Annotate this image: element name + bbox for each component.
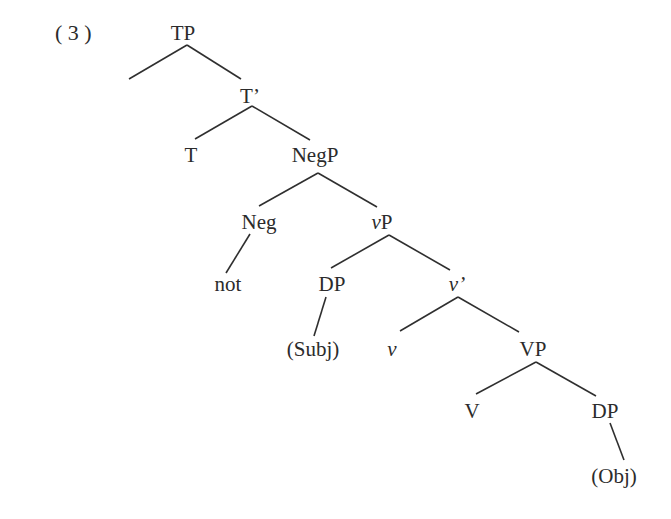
tree-node-subj: (Subj) <box>287 337 340 361</box>
tree-edge-tbar <box>252 106 310 140</box>
tree-edge-dp2 <box>610 423 624 460</box>
tree-edge-vp <box>476 362 536 394</box>
tree-node-vp: vP <box>371 210 392 234</box>
tree-edge-negp <box>259 173 318 206</box>
tree-edge-tp <box>187 45 241 79</box>
tree-node-v: v <box>387 337 397 361</box>
tree-node-neg: Neg <box>242 210 277 234</box>
tree-node-vbar: v’ <box>449 272 465 296</box>
tree-edge-vp <box>389 235 450 270</box>
tree-edges <box>129 45 624 460</box>
tree-edge-negp <box>318 173 377 207</box>
tree-nodes: TPT’TNegPNegvPnotDPv’(Subj)vVPVDP(Obj) <box>171 21 637 488</box>
tree-edge-vbar <box>400 297 458 331</box>
tree-node-t: T <box>185 143 198 167</box>
tree-node-vp: VP <box>520 337 547 361</box>
tree-node-not: not <box>215 272 242 296</box>
syntax-tree-diagram: ( 3 ) TPT’TNegPNegvPnotDPv’(Subj)vVPVDP(… <box>0 0 671 519</box>
tree-edge-vbar <box>458 297 519 332</box>
example-number: ( 3 ) <box>55 20 92 45</box>
tree-edge-vp <box>331 235 389 268</box>
tree-node-obj: (Obj) <box>591 464 637 488</box>
tree-node-tp: TP <box>171 21 196 45</box>
tree-edge-dp1 <box>314 297 326 336</box>
tree-edge-tp <box>129 45 187 79</box>
tree-edge-neg <box>226 234 250 273</box>
tree-edge-vp <box>536 362 596 396</box>
tree-node-negp: NegP <box>292 143 339 167</box>
tree-edge-tbar <box>195 106 252 139</box>
tree-node-tbar: T’ <box>240 84 260 108</box>
tree-node-v: V <box>464 399 479 423</box>
tree-node-dp2: DP <box>592 399 619 423</box>
tree-node-dp1: DP <box>319 272 346 296</box>
